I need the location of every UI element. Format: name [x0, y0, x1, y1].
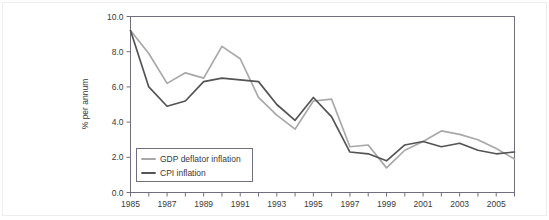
x-tick-label: 2003 [450, 199, 469, 209]
x-tick-label: 1999 [377, 199, 396, 209]
y-tick-label: 10.0 [107, 12, 124, 22]
x-tick-label: 1989 [194, 199, 213, 209]
x-tick-label: 1995 [304, 199, 323, 209]
x-tick-label: 1987 [158, 199, 177, 209]
x-tick-label: 1991 [231, 199, 250, 209]
y-tick-label: 0.0 [112, 188, 124, 198]
y-tick-label: 8.0 [112, 47, 124, 57]
y-tick-label: 4.0 [112, 117, 124, 127]
x-tick-label: 1985 [121, 199, 140, 209]
x-tick-label: 1997 [340, 199, 359, 209]
x-tick-label: 2005 [487, 199, 506, 209]
y-tick-label: 2.0 [112, 152, 124, 162]
y-tick-label: 6.0 [112, 82, 124, 92]
y-axis-title: % per annum [80, 79, 90, 130]
x-tick-label: 1993 [267, 199, 286, 209]
legend-label-gdp-deflator-inflation: GDP deflator inflation [160, 154, 241, 164]
line-chart: 0.02.04.06.08.010.0 19851987198919911993… [0, 0, 549, 220]
chart-legend: GDP deflator inflationCPI inflation [137, 149, 253, 182]
x-axis: 1985198719891991199319951997199920012003… [121, 193, 514, 209]
chart-figure: 0.02.04.06.08.010.0 19851987198919911993… [0, 0, 549, 220]
legend-label-cpi-inflation: CPI inflation [160, 168, 206, 178]
x-tick-label: 2001 [414, 199, 433, 209]
y-axis: 0.02.04.06.08.010.0 [107, 12, 131, 198]
